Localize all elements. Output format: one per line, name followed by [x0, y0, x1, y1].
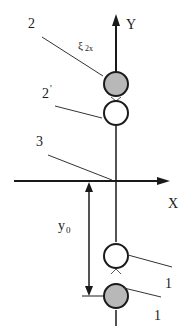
- x-axis-arrowhead-icon: [157, 177, 170, 185]
- label-2: 2: [28, 16, 35, 31]
- y0-arrow-down-icon: [85, 286, 93, 296]
- leader-line-2prime: [55, 106, 102, 118]
- particle-2prime-open-circle: [104, 101, 128, 125]
- label-3: 3: [36, 134, 43, 149]
- leader-line-1-upper: [128, 255, 172, 267]
- label-1-upper: 1: [165, 276, 172, 291]
- label-y0: y: [58, 218, 65, 233]
- connector-arrow-icon-lower: [111, 269, 121, 274]
- leader-line-2: [42, 37, 103, 76]
- particle-1-open-circle: [104, 244, 128, 268]
- y-axis-arrowhead-icon: [112, 14, 120, 26]
- label-2prime-mark: ': [50, 83, 52, 94]
- leader-line-1-lower: [124, 288, 161, 297]
- label-xi: ξ: [78, 39, 83, 52]
- x-axis-label: X: [168, 196, 178, 211]
- label-y0-subscript: 0: [66, 225, 71, 235]
- label-1-lower: 1: [154, 308, 161, 323]
- label-xi-subscript: 2x: [85, 44, 93, 53]
- particle-2-filled-circle: [104, 72, 128, 96]
- diagram-canvas: Y X 2 ξ 2x 2 ' 3 y 0 1 1: [0, 0, 189, 335]
- leader-line-3: [48, 155, 112, 180]
- y-axis-label: Y: [126, 17, 136, 32]
- y0-arrow-up-icon: [85, 182, 93, 192]
- label-2prime: 2: [42, 86, 49, 101]
